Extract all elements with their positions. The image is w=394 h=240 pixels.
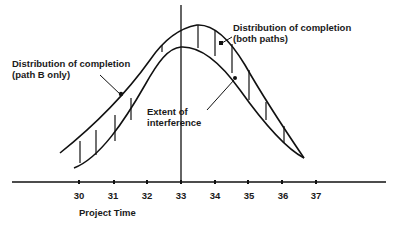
label-interference-line1: Extent of (147, 106, 201, 117)
tick-label: 30 (74, 190, 85, 201)
tick-label: 31 (108, 190, 119, 201)
tick-label: 33 (176, 190, 187, 201)
label-interference: Extent of interference (147, 106, 201, 128)
label-both-paths: Distribution of completion (both paths) (233, 22, 351, 44)
tick-label: 34 (210, 190, 221, 201)
tick-label: 37 (311, 190, 322, 201)
label-both-line1: Distribution of completion (233, 22, 351, 33)
pointer-dots (119, 41, 237, 96)
x-axis-title: Project Time (79, 207, 136, 218)
interference-hatching (80, 25, 284, 163)
label-path-b-line2: (path B only) (12, 69, 130, 80)
label-both-line2: (both paths) (233, 33, 351, 44)
tick-label: 35 (244, 190, 255, 201)
tick-label: 36 (278, 190, 289, 201)
tick-label: 32 (142, 190, 153, 201)
label-interference-line2: interference (147, 117, 201, 128)
label-path-b: Distribution of completion (path B only) (12, 58, 130, 80)
label-path-b-line1: Distribution of completion (12, 58, 130, 69)
